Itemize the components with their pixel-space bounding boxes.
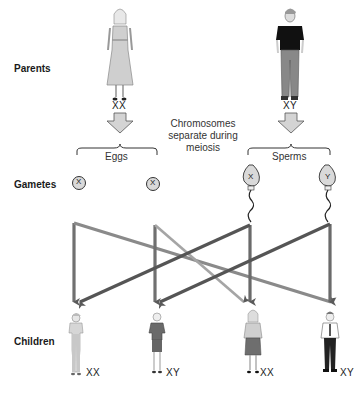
child-2-figure — [149, 313, 165, 373]
sperms-label: Sperms — [272, 151, 306, 162]
caption-line-1: Chromosomes — [158, 118, 248, 130]
child-2-genotype: XY — [166, 367, 180, 378]
egg-left-chromosome: X — [76, 177, 82, 186]
eggs-label: Eggs — [105, 151, 128, 162]
child-4-figure — [321, 312, 339, 373]
mother-block-arrow — [107, 113, 133, 133]
sperm-y-chromosome: Y — [325, 172, 331, 181]
child-1-figure — [69, 313, 83, 375]
sperm-x-chromosome: X — [248, 172, 254, 181]
child-4-genotype: XY — [340, 367, 354, 378]
mother-figure — [107, 9, 133, 101]
egg-right-chromosome: X — [150, 178, 156, 187]
mother-genotype: XX — [112, 100, 126, 111]
arrow-spermy-to-child2 — [160, 224, 330, 302]
child-1-genotype: XX — [86, 367, 100, 378]
arrow-spermx-to-child1 — [80, 225, 250, 302]
father-figure — [276, 9, 304, 101]
child-3-genotype: XX — [260, 367, 274, 378]
meiosis-caption: Chromosomes separate during meiosis — [158, 118, 248, 154]
child-3-figure — [244, 310, 262, 373]
caption-line-2: separate during — [158, 130, 248, 142]
father-block-arrow — [278, 113, 304, 133]
father-genotype: XY — [283, 100, 297, 111]
diagram-canvas — [0, 0, 364, 393]
arrow-egg1-to-child4 — [74, 223, 331, 302]
caption-line-3: meiosis — [158, 142, 248, 154]
inheritance-arrows — [74, 223, 331, 302]
